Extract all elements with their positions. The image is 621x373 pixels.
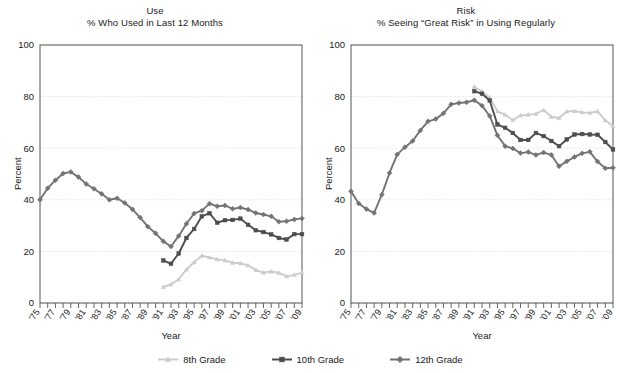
y-axis-label-risk: Percent [323, 157, 334, 190]
svg-text:'09: '09 [289, 307, 304, 322]
svg-text:'95: '95 [492, 307, 507, 322]
svg-text:'05: '05 [569, 307, 584, 322]
svg-text:'81: '81 [73, 307, 88, 322]
svg-text:'75: '75 [338, 307, 353, 322]
svg-text:'07: '07 [273, 307, 288, 322]
svg-text:40: 40 [23, 194, 34, 205]
svg-text:'79: '79 [58, 307, 73, 322]
svg-text:20: 20 [23, 246, 34, 257]
legend-label-10th: 10th Grade [297, 354, 345, 365]
svg-text:'93: '93 [165, 307, 180, 322]
svg-text:'99: '99 [523, 307, 538, 322]
chart-panel-use: Use % Who Used in Last 12 Months 0204060… [0, 0, 310, 348]
chart-panel-risk: Risk % Seeing “Great Risk” in Using Regu… [311, 0, 621, 348]
svg-text:'05: '05 [258, 307, 273, 322]
svg-text:'93: '93 [476, 307, 491, 322]
svg-text:'83: '83 [88, 307, 103, 322]
svg-text:'95: '95 [181, 307, 196, 322]
plot-area-use: 020406080100'75'77'79'81'83'85'87'89'91'… [0, 0, 310, 348]
legend: 8th Grade 10th Grade 12th Grade [0, 349, 621, 369]
svg-text:'99: '99 [212, 307, 227, 322]
svg-text:'85: '85 [104, 307, 119, 322]
svg-text:'97: '97 [507, 307, 522, 322]
svg-text:'01: '01 [538, 307, 553, 322]
legend-item-8th: 8th Grade [158, 354, 225, 365]
svg-text:20: 20 [334, 246, 345, 257]
svg-text:'87: '87 [430, 307, 445, 322]
svg-text:80: 80 [23, 91, 34, 102]
svg-text:'89: '89 [446, 307, 461, 322]
svg-text:'81: '81 [384, 307, 399, 322]
svg-text:'03: '03 [242, 307, 257, 322]
legend-item-10th: 10th Grade [272, 354, 345, 365]
svg-text:'09: '09 [600, 307, 615, 322]
legend-swatch-8th [158, 355, 178, 364]
legend-swatch-12th [390, 355, 410, 364]
svg-text:0: 0 [340, 297, 345, 308]
x-axis-label-use: Year [40, 330, 302, 341]
svg-text:100: 100 [18, 39, 34, 50]
svg-text:'83: '83 [399, 307, 414, 322]
svg-text:'01: '01 [227, 307, 242, 322]
svg-text:40: 40 [334, 194, 345, 205]
svg-text:'75: '75 [27, 307, 42, 322]
svg-text:'77: '77 [353, 307, 368, 322]
svg-text:60: 60 [23, 143, 34, 154]
legend-item-12th: 12th Grade [390, 354, 463, 365]
legend-swatch-10th [272, 355, 292, 364]
svg-text:'07: '07 [584, 307, 599, 322]
svg-text:80: 80 [334, 91, 345, 102]
y-axis-label-use: Percent [12, 157, 23, 190]
plot-area-risk: 020406080100'75'77'79'81'83'85'87'89'91'… [311, 0, 621, 348]
figure-root: Use % Who Used in Last 12 Months 0204060… [0, 0, 621, 373]
svg-text:'91: '91 [150, 307, 165, 322]
x-axis-label-risk: Year [351, 330, 613, 341]
legend-label-8th: 8th Grade [183, 354, 225, 365]
svg-text:'85: '85 [415, 307, 430, 322]
svg-text:'79: '79 [369, 307, 384, 322]
svg-text:'89: '89 [135, 307, 150, 322]
legend-label-12th: 12th Grade [415, 354, 463, 365]
svg-text:'03: '03 [553, 307, 568, 322]
svg-text:'97: '97 [196, 307, 211, 322]
svg-text:'87: '87 [119, 307, 134, 322]
svg-text:0: 0 [29, 297, 34, 308]
svg-text:60: 60 [334, 143, 345, 154]
svg-text:'91: '91 [461, 307, 476, 322]
svg-text:'77: '77 [42, 307, 57, 322]
svg-text:100: 100 [329, 39, 345, 50]
